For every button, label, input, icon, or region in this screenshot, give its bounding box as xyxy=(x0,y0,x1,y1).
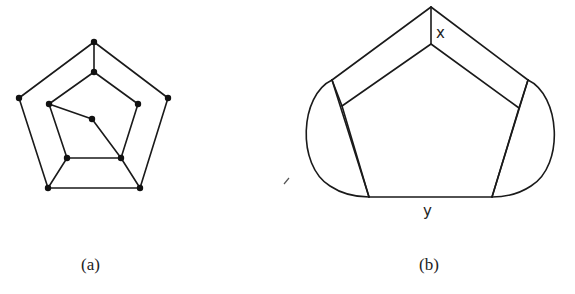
vertex-inner-right xyxy=(135,101,141,107)
label-x: x xyxy=(436,24,445,42)
edge-center-bottom-right xyxy=(92,119,121,158)
outer-roof-right xyxy=(431,7,528,80)
left-side-line xyxy=(332,80,369,197)
stray-mark xyxy=(284,178,289,184)
vertex-center xyxy=(89,116,95,122)
vertex-outer-left xyxy=(16,95,22,101)
label-y: y xyxy=(423,202,432,220)
caption-b: (b) xyxy=(419,255,439,274)
edge-spoke-bottom-left xyxy=(48,158,67,188)
vertex-inner-top xyxy=(91,69,97,75)
edge-inner-top-right xyxy=(94,72,138,104)
edge-inner-top-left xyxy=(49,72,94,104)
inner-pentagon xyxy=(342,44,519,197)
vertex-inner-bottom-left xyxy=(64,155,70,161)
vertex-inner-bottom-right xyxy=(118,155,124,161)
vertex-inner-left xyxy=(46,101,52,107)
vertex-outer-top xyxy=(91,39,97,45)
panel-b-diagram: x y xyxy=(306,7,554,220)
figure-canvas: x y (a) (b) xyxy=(0,0,575,294)
edge-inner-left-bottom xyxy=(49,104,67,158)
edge-left-center xyxy=(49,104,92,119)
edge-inner-right-bottom xyxy=(121,104,138,158)
vertex-outer-bottom-right xyxy=(137,185,143,191)
panel-a-graph xyxy=(16,39,171,191)
edge-spoke-bottom-right xyxy=(121,158,140,188)
right-side-line xyxy=(492,80,528,197)
caption-a: (a) xyxy=(81,255,100,274)
vertex-outer-right xyxy=(165,95,171,101)
vertex-outer-bottom-left xyxy=(45,185,51,191)
outer-roof-left xyxy=(332,7,431,80)
